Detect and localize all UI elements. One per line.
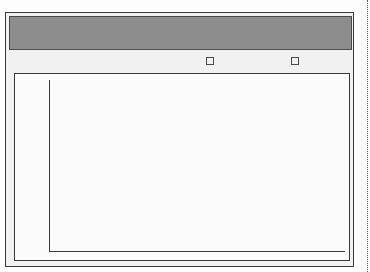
- x-axis-ticks: [50, 251, 344, 260]
- legend-row: [14, 57, 350, 72]
- bars-container: [50, 78, 344, 251]
- figure-title-banner: [9, 16, 352, 50]
- page-gutter-dotted-rule: [367, 0, 368, 272]
- y-axis: [15, 74, 45, 260]
- square-swatch-icon: [206, 57, 214, 65]
- plot-area: [14, 73, 350, 261]
- page-root: [0, 0, 370, 272]
- legend-item-industry: [291, 57, 303, 65]
- cropped-body-text: [4, 0, 354, 8]
- figure-container: [5, 12, 354, 267]
- square-swatch-icon: [291, 57, 299, 65]
- legend-item-agriculture: [206, 57, 218, 65]
